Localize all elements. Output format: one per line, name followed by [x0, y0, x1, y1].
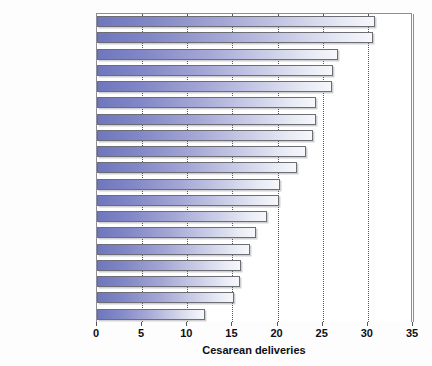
tick-mark-35: [412, 322, 413, 326]
bar-scotland: [97, 114, 316, 125]
x-axis-title: Cesarean deliveries: [96, 344, 412, 356]
cesarean-deliveries-bar-chart: 05101520253035 ItalyGreeceAustraliaUnite…: [0, 0, 432, 366]
bar-row: [97, 292, 234, 303]
bar-row: [97, 260, 241, 271]
plot-area: [96, 13, 412, 322]
bar-england: [97, 162, 297, 173]
bar-row: [97, 227, 256, 238]
tick-mark-20: [277, 322, 278, 326]
bar-row: [97, 114, 316, 125]
bar-row: [97, 162, 297, 173]
bar-row: [97, 244, 250, 255]
bar-australia: [97, 49, 338, 60]
bar-row: [97, 179, 280, 190]
bar-united-states: [97, 65, 333, 76]
bar-belgium: [97, 244, 250, 255]
bar-germany: [97, 130, 313, 141]
tick-mark-15: [231, 322, 232, 326]
gridline-35: [413, 14, 414, 322]
bar-row: [97, 146, 306, 157]
tick-mark-25: [322, 322, 323, 326]
bar-row: [97, 130, 313, 141]
tick-label-15: 15: [211, 327, 251, 339]
tick-mark-0: [96, 322, 97, 326]
bar-row: [97, 195, 279, 206]
bar-finland: [97, 276, 240, 287]
bar-group: [97, 14, 411, 322]
bar-austria: [97, 211, 267, 222]
bar-row: [97, 81, 332, 92]
bar-france: [97, 227, 256, 238]
bar-row: [97, 49, 338, 60]
bar-italy: [97, 16, 375, 27]
bar-irish-republic: [97, 179, 280, 190]
bar-denmark: [97, 260, 241, 271]
tick-mark-5: [141, 322, 142, 326]
bar-row: [97, 32, 373, 43]
tick-label-5: 5: [121, 327, 161, 339]
bar-canada: [97, 146, 306, 157]
bar-row: [97, 276, 240, 287]
tick-mark-30: [367, 322, 368, 326]
bar-netherlands: [97, 309, 205, 320]
tick-label-0: 0: [76, 327, 116, 339]
tick-label-25: 25: [302, 327, 342, 339]
bar-row: [97, 97, 316, 108]
bar-row: [97, 16, 375, 27]
tick-label-30: 30: [347, 327, 387, 339]
bar-luxembourg: [97, 195, 279, 206]
tick-mark-10: [186, 322, 187, 326]
bar-wales: [97, 97, 316, 108]
bar-sweden: [97, 292, 234, 303]
bar-greece: [97, 32, 373, 43]
bar-row: [97, 65, 333, 76]
tick-label-10: 10: [166, 327, 206, 339]
bar-row: [97, 211, 267, 222]
tick-label-20: 20: [257, 327, 297, 339]
bar-row: [97, 309, 205, 320]
tick-label-35: 35: [392, 327, 432, 339]
bar-n-ireland: [97, 81, 332, 92]
